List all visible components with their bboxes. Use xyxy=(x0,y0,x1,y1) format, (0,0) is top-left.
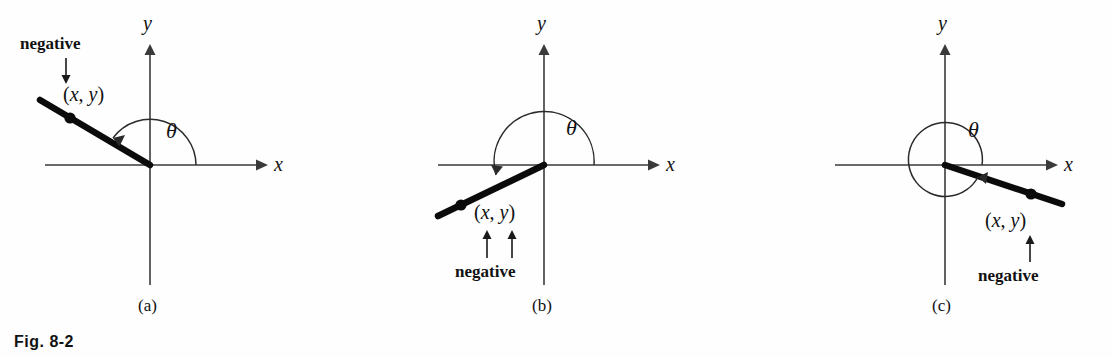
panel-b-negative-label: negative xyxy=(455,262,516,281)
panel-b-x-axis-label: x xyxy=(665,153,675,175)
panel-c-negative-pointer-arrowhead xyxy=(1026,235,1035,244)
panel-a-point-marker xyxy=(64,112,75,123)
panel-c-x-axis-label: x xyxy=(1063,153,1073,175)
panel-b-point-marker xyxy=(455,199,466,210)
panel-c-point-marker xyxy=(1025,188,1036,199)
panel-b-point-label: (x, y) xyxy=(474,201,515,224)
panel-c-label: (c) xyxy=(932,296,951,315)
panel-a-point-label: (x, y) xyxy=(63,83,104,106)
panel-b-x-axis-arrowhead xyxy=(648,160,660,171)
figure-container: x y θ (x, y) negative (a) xyxy=(0,0,1112,357)
panel-a-label: (a) xyxy=(138,296,157,315)
panel-b: x y θ (x, y) negative (b) xyxy=(438,12,675,315)
panel-a-theta-label: θ xyxy=(166,118,177,143)
panel-a-x-axis-arrowhead xyxy=(256,160,268,171)
panel-b-label: (b) xyxy=(532,296,552,315)
panel-c-terminal-ray xyxy=(945,165,1062,204)
panel-b-negative-pointer-y-arrowhead xyxy=(508,230,517,239)
panel-c-point-label: (x, y) xyxy=(985,209,1026,232)
panel-c-x-axis-arrowhead xyxy=(1046,160,1058,171)
panel-a-x-axis-label: x xyxy=(273,153,283,175)
panel-b-theta-label: θ xyxy=(566,115,577,140)
panel-b-theta-arrowhead xyxy=(491,165,503,175)
panel-c-y-axis-label: y xyxy=(936,12,947,35)
panel-a-theta-arc xyxy=(113,119,196,165)
panel-a-y-axis-arrowhead xyxy=(145,44,156,55)
panel-b-y-axis-arrowhead xyxy=(539,44,550,55)
panel-c-theta-label: θ xyxy=(968,117,979,142)
figure-8-2-svg: x y θ (x, y) negative (a) xyxy=(0,0,1112,357)
panel-c-negative-label: negative xyxy=(978,266,1039,285)
panel-a-negative-label: negative xyxy=(20,34,81,53)
panel-c: x y θ (x, y) negative (c) xyxy=(835,12,1073,315)
figure-caption: Fig. 8-2 xyxy=(14,333,74,350)
panel-a-terminal-ray xyxy=(40,100,150,165)
panel-b-negative-pointer-x-arrowhead xyxy=(483,230,492,239)
panel-a: x y θ (x, y) negative (a) xyxy=(20,12,283,315)
panel-a-y-axis-label: y xyxy=(141,12,152,35)
panel-b-y-axis-label: y xyxy=(535,12,546,35)
panel-c-y-axis-arrowhead xyxy=(940,44,951,55)
